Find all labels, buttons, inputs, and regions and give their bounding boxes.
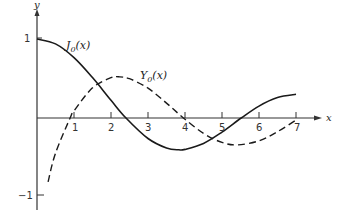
x-axis-label: x <box>326 112 332 123</box>
svg-text:6: 6 <box>256 122 262 133</box>
x-axis-arrow-icon <box>314 116 322 121</box>
y-axis-arrow-icon <box>35 9 40 16</box>
j0-curve <box>37 39 296 150</box>
y-tick-label-1: 1 <box>24 33 30 44</box>
x-ticks <box>74 112 296 118</box>
y-axis-label: y <box>33 0 40 10</box>
svg-text:4: 4 <box>182 122 188 133</box>
svg-text:2: 2 <box>108 122 114 133</box>
y-tick-label-neg1: −1 <box>18 190 33 201</box>
y0-label: Y0(x) <box>140 69 167 84</box>
svg-text:1: 1 <box>72 122 78 133</box>
x-tick-labels: 1 2 3 4 5 6 7 <box>72 122 300 133</box>
j0-label: J0(x) <box>64 39 90 54</box>
svg-text:3: 3 <box>145 122 151 133</box>
bessel-chart: y x 1 −1 1 2 3 4 5 6 7 J0(x) Y0(x) <box>0 0 346 220</box>
svg-text:7: 7 <box>294 122 300 133</box>
